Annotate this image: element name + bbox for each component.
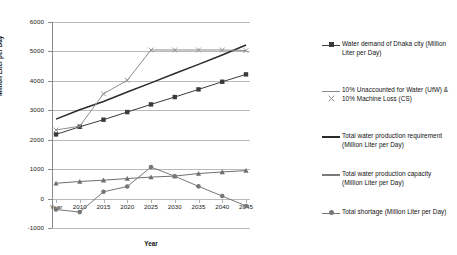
legend-marker-square-icon bbox=[322, 41, 340, 50]
y-axis-tick-label: 2000 bbox=[0, 136, 44, 143]
y-axis-tick-label: -1000 bbox=[0, 224, 44, 231]
y-axis-tick-label: 4000 bbox=[0, 77, 44, 84]
legend-marker-circle-icon bbox=[322, 209, 340, 218]
data-point-marker bbox=[149, 165, 154, 170]
series-line bbox=[56, 167, 246, 212]
data-point-marker bbox=[244, 72, 248, 76]
legend-item-3[interactable]: Total water production requirement (Mill… bbox=[322, 132, 442, 149]
data-point-marker bbox=[101, 190, 106, 195]
series-line bbox=[56, 45, 246, 119]
y-axis-tick-label: 5000 bbox=[0, 47, 44, 54]
data-series-layer bbox=[52, 22, 250, 228]
legend-item-2[interactable]: 10% Unaccounted for Water (UfW) & 10% Ma… bbox=[322, 86, 448, 103]
legend-item-label: Water demand of Dhaka city (Million Lite… bbox=[342, 40, 446, 57]
data-point-marker bbox=[220, 80, 224, 84]
x-axis-title: Year bbox=[52, 240, 250, 247]
legend-item-label: Total water production requirement (Mill… bbox=[342, 132, 442, 149]
series-1 bbox=[54, 72, 248, 136]
data-point-marker bbox=[220, 194, 225, 199]
legend-item-label: 10% Unaccounted for Water (UfW) & 10% Ma… bbox=[342, 86, 448, 103]
data-point-marker bbox=[101, 91, 106, 96]
data-point-marker bbox=[54, 207, 59, 212]
legend-marker-none-icon bbox=[322, 171, 340, 180]
data-point-marker bbox=[244, 204, 249, 209]
series-4 bbox=[54, 48, 249, 133]
legend-item-label: Total shortage (Million Liter per Day) bbox=[342, 208, 447, 217]
data-point-marker bbox=[54, 132, 58, 136]
series-2 bbox=[53, 168, 248, 185]
y-axis-title: Million Liter per Day bbox=[0, 36, 3, 96]
data-point-marker bbox=[101, 118, 105, 122]
y-axis-tick bbox=[48, 228, 52, 229]
data-point-marker bbox=[125, 78, 130, 83]
series-line bbox=[56, 50, 246, 130]
data-point-marker bbox=[125, 110, 129, 114]
legend-item-label: Total water production capacity (Million… bbox=[342, 170, 431, 187]
legend-item-5[interactable]: Total shortage (Million Liter per Day) bbox=[322, 208, 447, 218]
data-point-marker bbox=[196, 87, 200, 91]
data-point-marker bbox=[77, 210, 82, 215]
y-axis-tick-label: 0 bbox=[0, 195, 44, 202]
series-3 bbox=[56, 45, 246, 119]
legend-marker-none-icon bbox=[322, 133, 340, 142]
legend-marker-cross-icon bbox=[322, 87, 340, 96]
legend-item-1[interactable]: Water demand of Dhaka city (Million Lite… bbox=[322, 40, 446, 57]
y-axis-tick-label: 6000 bbox=[0, 18, 44, 25]
gridline bbox=[52, 228, 250, 229]
y-axis-tick-label: 1000 bbox=[0, 165, 44, 172]
chart-container: Million Liter per Day 600050004000300020… bbox=[0, 0, 457, 255]
data-point-marker bbox=[196, 184, 201, 189]
data-point-marker bbox=[173, 95, 177, 99]
data-point-marker bbox=[172, 174, 177, 179]
data-point-marker bbox=[149, 102, 153, 106]
data-point-marker bbox=[125, 184, 130, 189]
y-axis-tick-label: 3000 bbox=[0, 106, 44, 113]
legend-item-4[interactable]: Total water production capacity (Million… bbox=[322, 170, 431, 187]
